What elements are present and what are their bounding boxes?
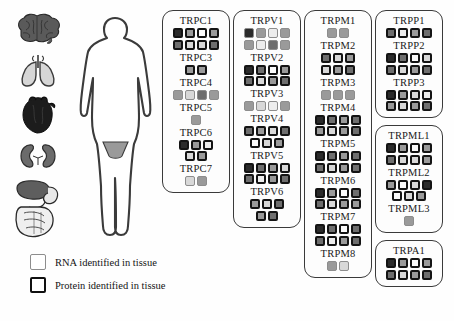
expression-square — [398, 101, 408, 111]
expression-square — [339, 236, 349, 246]
tissue-row — [386, 65, 432, 75]
column-trpm: TRPM1TRPM2TRPM3TRPM4TRPM5TRPM6TRPM7TRPM8 — [304, 10, 372, 285]
tissue-row — [327, 28, 349, 38]
tissue-row — [244, 65, 290, 75]
expression-square — [386, 53, 396, 63]
channel-trpc7: TRPC7 — [166, 163, 226, 186]
tissue-row — [315, 224, 361, 234]
expression-square — [327, 236, 337, 246]
tissue-row — [250, 138, 284, 148]
channel-label: TRPM8 — [308, 248, 368, 260]
expression-square — [410, 53, 420, 63]
expression-square — [410, 180, 420, 190]
legend-label-protein: Protein identified in tissue — [55, 280, 166, 291]
expression-square — [185, 40, 195, 50]
channel-trpv4: TRPV4 — [237, 113, 297, 148]
brain-icon — [13, 12, 63, 45]
expression-square — [398, 258, 408, 268]
channel-trpm5: TRPM5 — [308, 138, 368, 173]
channel-trpm4: TRPM4 — [308, 102, 368, 137]
channel-label: TRPV3 — [237, 88, 297, 100]
tissue-row — [386, 180, 432, 190]
expression-square — [422, 53, 432, 63]
expression-square — [244, 174, 254, 184]
expression-square — [351, 151, 361, 161]
channel-label: TRPML2 — [379, 167, 439, 179]
expression-square — [422, 270, 432, 280]
channel-label: TRPA1 — [379, 245, 439, 257]
expression-square — [262, 199, 272, 209]
expression-square — [410, 143, 420, 153]
tissue-row — [250, 199, 284, 209]
protein-swatch-icon — [30, 277, 46, 293]
expression-square — [280, 174, 290, 184]
tissue-row — [244, 40, 290, 50]
expression-square — [422, 155, 432, 165]
tissue-rows — [379, 53, 439, 75]
expression-square — [386, 101, 396, 111]
expression-square — [280, 65, 290, 75]
tissue-row — [321, 53, 355, 63]
trpm-box: TRPM1TRPM2TRPM3TRPM4TRPM5TRPM6TRPM7TRPM8 — [304, 10, 372, 278]
expression-square — [268, 76, 278, 86]
expression-square — [197, 28, 207, 38]
expression-square — [209, 28, 219, 38]
tissue-row — [321, 65, 355, 75]
channel-trpm1: TRPM1 — [308, 15, 368, 38]
channel-label: TRPV2 — [237, 52, 297, 64]
tissue-row — [321, 90, 355, 100]
tissue-row — [386, 155, 432, 165]
channel-trpml1: TRPML1 — [379, 130, 439, 165]
expression-square — [209, 90, 219, 100]
tissue-row — [244, 28, 290, 38]
expression-square — [185, 65, 195, 75]
expression-square — [173, 90, 183, 100]
tissue-rows — [308, 151, 368, 173]
expression-square — [410, 270, 420, 280]
channel-trpv3: TRPV3 — [237, 88, 297, 111]
tissue-row — [392, 191, 426, 201]
channel-trpm3: TRPM3 — [308, 77, 368, 100]
tissue-row — [315, 188, 361, 198]
expression-square — [351, 188, 361, 198]
expression-square — [422, 143, 432, 153]
expression-square — [327, 28, 337, 38]
legend-label-rna: RNA identified in tissue — [55, 257, 157, 268]
tissue-row — [185, 176, 207, 186]
expression-square — [256, 101, 266, 111]
channel-label: TRPV5 — [237, 150, 297, 162]
channel-label: TRPM7 — [308, 211, 368, 223]
expression-square — [185, 90, 195, 100]
digestive-icon — [12, 178, 64, 240]
expression-square — [351, 163, 361, 173]
expression-square — [422, 180, 432, 190]
lungs-icon — [14, 52, 62, 88]
tissue-row — [173, 28, 219, 38]
tissue-rows — [379, 28, 439, 38]
tissue-rows — [379, 216, 439, 226]
expression-square — [256, 65, 266, 75]
expression-square — [268, 101, 278, 111]
expression-square — [398, 270, 408, 280]
expression-square — [244, 28, 254, 38]
tissue-row — [386, 101, 432, 111]
channel-label: TRPM1 — [308, 15, 368, 27]
expression-square — [422, 65, 432, 75]
expression-square — [256, 40, 266, 50]
expression-square — [280, 126, 290, 136]
expression-square — [327, 151, 337, 161]
channel-trpv5: TRPV5 — [237, 150, 297, 185]
expression-square — [197, 151, 207, 161]
channel-label: TRPC4 — [166, 77, 226, 89]
channel-label: TRPM3 — [308, 77, 368, 89]
tissue-row — [386, 90, 432, 100]
expression-square — [315, 115, 325, 125]
tissue-rows — [308, 115, 368, 137]
expression-square — [386, 143, 396, 153]
tissue-rows — [237, 65, 297, 87]
channel-trpc4: TRPC4 — [166, 77, 226, 100]
expression-square — [280, 101, 290, 111]
expression-square — [280, 28, 290, 38]
expression-square — [327, 188, 337, 198]
tissue-row — [179, 140, 213, 150]
